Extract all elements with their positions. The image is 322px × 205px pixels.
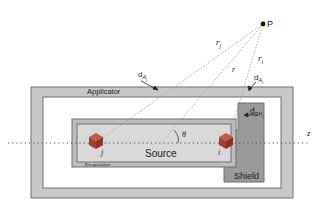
- r-j-label: rj: [216, 37, 222, 49]
- d-aj-label: dAj: [138, 70, 147, 82]
- theta-label: θ: [182, 130, 186, 139]
- dosimetry-diagram: Applicator Source Shield Encapsulation P…: [0, 0, 322, 205]
- cube-i-label: i: [218, 148, 220, 157]
- applicator-label: Applicator: [87, 87, 121, 96]
- r-label: r: [232, 65, 236, 74]
- z-axis-label: z: [306, 128, 311, 138]
- shield-label: Shield: [234, 171, 259, 181]
- point-p-marker: [261, 22, 266, 27]
- r-i-label: ri: [258, 53, 264, 65]
- encapsulation-label: Encapsulation: [85, 162, 110, 167]
- source-label: Source: [145, 148, 177, 159]
- point-p-label: P: [267, 19, 273, 29]
